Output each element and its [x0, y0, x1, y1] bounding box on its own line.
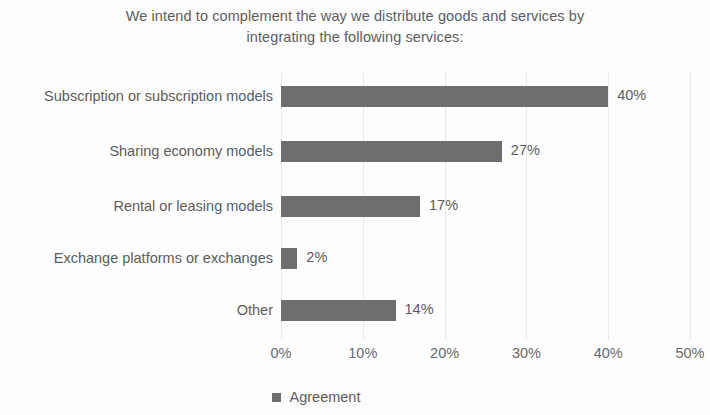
- category-label: Rental or leasing models: [0, 196, 273, 217]
- bar-chart: We intend to complement the way we distr…: [0, 0, 710, 415]
- bar-row: 27%: [281, 141, 690, 162]
- legend-entry-label: Agreement: [290, 388, 361, 406]
- bar-row: 14%: [281, 300, 690, 321]
- x-tick-label: 10%: [348, 343, 377, 363]
- category-label: Subscription or subscription models: [0, 86, 273, 107]
- x-tick-label: 20%: [430, 343, 459, 363]
- plot-area: 40%27%17%2%14%: [281, 72, 690, 340]
- bar-5[interactable]: [281, 300, 396, 321]
- x-tick-label: 40%: [594, 343, 623, 363]
- category-label: Other: [0, 300, 273, 321]
- bar-value-label: 17%: [429, 195, 458, 216]
- bar-row: 40%: [281, 86, 690, 107]
- x-axis-tick-labels: 0%10%20%30%40%50%: [281, 343, 690, 365]
- category-label: Exchange platforms or exchanges: [0, 248, 273, 269]
- bar-value-label: 40%: [617, 85, 646, 106]
- bar-3[interactable]: [281, 196, 420, 217]
- bar-value-label: 14%: [405, 299, 434, 320]
- legend-entry-agreement: Agreement: [272, 388, 361, 406]
- x-tick-label: 50%: [675, 343, 704, 363]
- x-tick-label: 30%: [512, 343, 541, 363]
- category-label: Sharing economy models: [0, 141, 273, 162]
- bar-value-label: 27%: [511, 140, 540, 161]
- bar-1[interactable]: [281, 86, 608, 107]
- chart-legend: Agreement: [0, 388, 710, 406]
- legend-swatch-icon: [272, 393, 281, 402]
- bar-value-label: 2%: [306, 247, 327, 268]
- bar-row: 17%: [281, 196, 690, 217]
- category-axis-labels: Subscription or subscription modelsShari…: [0, 72, 273, 340]
- bar-4[interactable]: [281, 248, 297, 269]
- x-tick-label: 0%: [271, 343, 292, 363]
- chart-title: We intend to complement the way we distr…: [60, 6, 650, 48]
- gridline-50: [690, 72, 691, 340]
- bar-2[interactable]: [281, 141, 502, 162]
- bar-row: 2%: [281, 248, 690, 269]
